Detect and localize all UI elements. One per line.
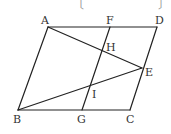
right-bracket: 〕 (158, 0, 170, 12)
label-f: F (106, 14, 114, 27)
label-h: H (106, 41, 116, 54)
label-a: A (40, 14, 50, 27)
segment-ae (48, 27, 142, 68)
geometry-figure: 〔 〕 A F D H E I B G C (0, 0, 171, 134)
label-g: G (77, 113, 86, 126)
label-c: C (126, 113, 134, 126)
segment-ba (18, 27, 48, 110)
label-d: D (155, 14, 164, 27)
label-i: I (92, 88, 96, 101)
label-e: E (145, 66, 153, 79)
segment-be (18, 68, 142, 110)
left-bracket: 〔 (72, 0, 84, 12)
label-b: B (13, 113, 21, 126)
